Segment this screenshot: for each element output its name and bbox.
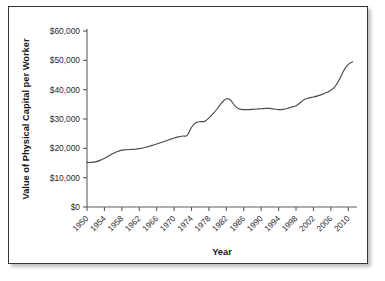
x-tick-label: 2010 <box>332 214 352 234</box>
x-tick-label: 1998 <box>280 214 300 234</box>
x-tick-label: 1990 <box>245 214 265 234</box>
x-tick-label: 1986 <box>228 214 248 234</box>
y-axis-ticks: $0$10,000$20,000$30,000$40,000$50,000$60… <box>50 26 87 212</box>
x-tick-label: 1978 <box>193 214 213 234</box>
x-tick-label: 1950 <box>71 214 91 234</box>
x-tick-label: 1954 <box>89 214 109 234</box>
x-tick-label: 1982 <box>211 214 231 234</box>
x-tick-label: 1966 <box>141 214 161 234</box>
y-tick-label: $10,000 <box>50 173 81 183</box>
y-tick-label: $40,000 <box>50 85 81 95</box>
y-tick-label: $30,000 <box>50 114 81 124</box>
y-axis-title: Value of Physical Capital per Worker <box>21 38 31 199</box>
data-series-line <box>87 62 353 163</box>
x-tick-label: 1962 <box>123 214 143 234</box>
x-tick-label: 1994 <box>263 214 283 234</box>
x-tick-label: 2002 <box>298 214 318 234</box>
y-tick-label: $20,000 <box>50 143 81 153</box>
x-tick-label: 1958 <box>106 214 126 234</box>
chart-figure: $0$10,000$20,000$30,000$40,000$50,000$60… <box>8 6 368 264</box>
y-tick-label: $0 <box>71 202 81 212</box>
line-chart: $0$10,000$20,000$30,000$40,000$50,000$60… <box>9 7 366 262</box>
x-tick-label: 1974 <box>176 214 196 234</box>
x-axis-title: Year <box>212 247 232 257</box>
plot-area: $0$10,000$20,000$30,000$40,000$50,000$60… <box>9 7 367 263</box>
x-axis-ticks: 1950195419581962196619701974197819821986… <box>71 207 352 233</box>
x-tick-label: 1970 <box>158 214 178 234</box>
x-tick-label: 2006 <box>315 214 335 234</box>
y-tick-label: $50,000 <box>50 55 81 65</box>
y-tick-label: $60,000 <box>50 26 81 36</box>
